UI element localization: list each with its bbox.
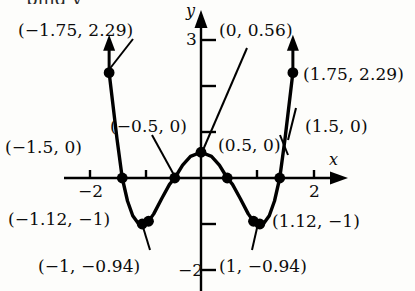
leader-zero-left-inner [152, 135, 174, 175]
label-point-1.75-2.29: (1.75, 2.29) [303, 66, 404, 83]
label-point--1--0.94: (−1, −0.94) [38, 258, 140, 275]
label-point--0.5-0: (−0.5, 0) [110, 118, 187, 135]
center-hump-left [175, 153, 201, 179]
label-point-0-0.56: (0, 0.56) [219, 22, 293, 39]
x-axis-arrowhead [330, 172, 348, 185]
point--0.5-0 [169, 173, 180, 184]
label-point--1.5-0: (−1.5, 0) [5, 139, 82, 156]
point--1.5-0 [117, 173, 128, 184]
label-point--1.75-2.29: (−1.75, 2.29) [18, 22, 133, 39]
x-axis-label: x [329, 152, 338, 168]
label-point-1--0.94: (1, −0.94) [219, 258, 307, 275]
point-0-0.56 [196, 147, 207, 158]
point-1.12--1 [254, 219, 265, 230]
label-point-1.12--1: (1.12, −1) [272, 213, 360, 230]
point-1.5-0 [274, 173, 285, 184]
x-tick-label-2: 2 [309, 183, 320, 200]
label-point--1.12--1: (−1.12, −1) [8, 211, 110, 228]
label-point-0.5-0: (0.5, 0) [218, 137, 281, 154]
label-point-1.5-0: (1.5, 0) [305, 118, 368, 135]
point-1.75-2.29 [287, 67, 298, 78]
x-tick-label--2: −2 [78, 183, 103, 200]
y-tick-label-3: 3 [186, 31, 197, 48]
graph-figure: ping y [0, 0, 415, 291]
leader-min-left-alt [143, 227, 150, 250]
y-tick-label--2: −2 [178, 262, 203, 279]
leader-min-right-alt [252, 228, 257, 250]
center-hump-right [201, 153, 227, 179]
y-axis-arrowhead [195, 10, 208, 28]
point--1--0.94 [143, 216, 154, 227]
point-0.5-0 [222, 173, 233, 184]
y-axis-label: y [186, 3, 195, 19]
